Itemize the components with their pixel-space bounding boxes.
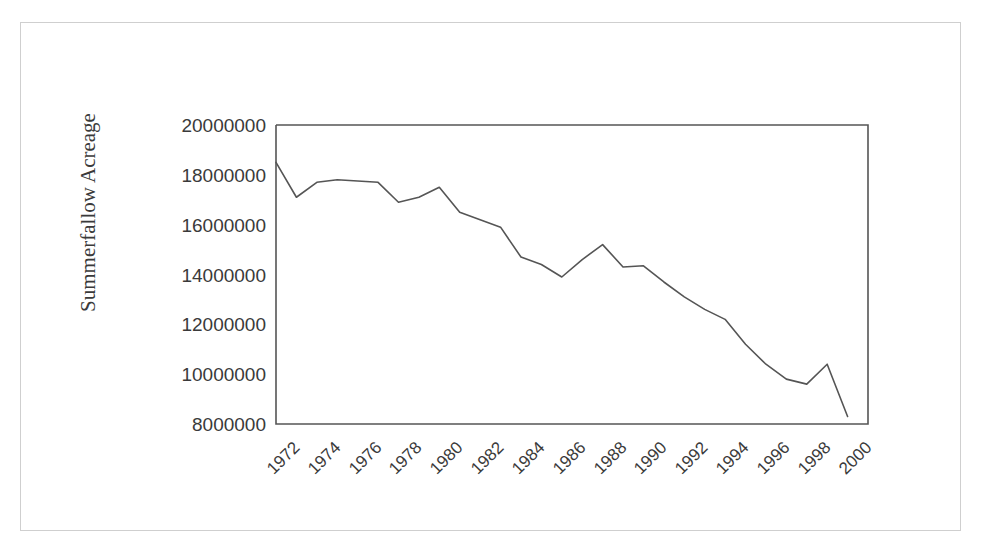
line-chart-plot — [0, 0, 986, 556]
plot-axis-lines — [276, 125, 868, 424]
data-series-line — [276, 162, 848, 416]
chart-figure: 2000000018000000160000001400000012000000… — [0, 0, 986, 556]
